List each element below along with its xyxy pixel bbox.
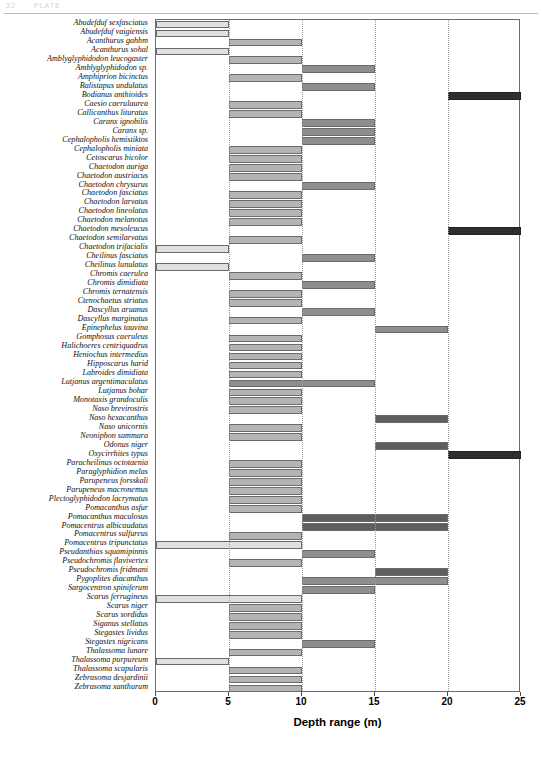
depth-range-bar[interactable] xyxy=(229,505,302,513)
depth-range-bar[interactable] xyxy=(229,406,302,414)
depth-range-bar[interactable] xyxy=(375,568,448,576)
chart-row xyxy=(156,65,519,74)
depth-range-bar[interactable] xyxy=(229,613,302,621)
chart-row xyxy=(156,199,519,208)
depth-range-bar[interactable] xyxy=(302,254,375,262)
depth-range-bar[interactable] xyxy=(229,39,302,47)
chart-row xyxy=(156,352,519,361)
depth-range-bar[interactable] xyxy=(229,487,302,495)
depth-range-bar[interactable] xyxy=(448,92,521,100)
depth-range-bar[interactable] xyxy=(229,460,302,468)
depth-range-bar[interactable] xyxy=(375,415,448,423)
depth-range-bar[interactable] xyxy=(229,290,302,298)
gridline xyxy=(448,20,449,691)
depth-range-bar[interactable] xyxy=(229,631,302,639)
depth-range-bar[interactable] xyxy=(229,362,302,370)
depth-range-bar[interactable] xyxy=(375,442,448,450)
depth-range-bar[interactable] xyxy=(229,433,302,441)
depth-range-bar[interactable] xyxy=(229,299,302,307)
depth-range-chart: Abudefduf sexfasciatusAbudefduf vaigiens… xyxy=(0,0,542,763)
depth-range-bar[interactable] xyxy=(302,550,375,558)
depth-range-bar[interactable] xyxy=(229,173,302,181)
chart-row xyxy=(156,208,519,217)
chart-row xyxy=(156,675,519,684)
chart-row xyxy=(156,217,519,226)
depth-range-bar[interactable] xyxy=(302,137,375,145)
depth-range-bar[interactable] xyxy=(229,371,302,379)
depth-range-bar[interactable] xyxy=(302,128,375,136)
depth-range-bar[interactable] xyxy=(302,586,375,594)
depth-range-bar[interactable] xyxy=(229,74,302,82)
depth-range-bar[interactable] xyxy=(229,236,302,244)
chart-row xyxy=(156,388,519,397)
depth-range-bar[interactable] xyxy=(229,200,302,208)
depth-range-bar[interactable] xyxy=(229,335,302,343)
depth-range-bar[interactable] xyxy=(229,218,302,226)
depth-range-bar[interactable] xyxy=(229,353,302,361)
x-axis-tick-label: 5 xyxy=(225,696,231,707)
depth-range-bar[interactable] xyxy=(229,622,302,630)
chart-row xyxy=(156,226,519,235)
chart-row xyxy=(156,334,519,343)
depth-range-bar[interactable] xyxy=(229,649,302,657)
chart-row xyxy=(156,325,519,334)
depth-range-bar[interactable] xyxy=(229,676,302,684)
depth-range-bar[interactable] xyxy=(229,389,302,397)
depth-range-bar[interactable] xyxy=(229,424,302,432)
chart-row xyxy=(156,657,519,666)
chart-row xyxy=(156,639,519,648)
chart-row xyxy=(156,361,519,370)
chart-row xyxy=(156,38,519,47)
depth-range-bar[interactable] xyxy=(229,146,302,154)
depth-range-bar[interactable] xyxy=(448,451,521,459)
chart-row xyxy=(156,289,519,298)
chart-row xyxy=(156,343,519,352)
depth-range-bar[interactable] xyxy=(302,83,375,91)
depth-range-bar[interactable] xyxy=(156,263,229,271)
depth-range-bar[interactable] xyxy=(229,532,302,540)
depth-range-bar[interactable] xyxy=(229,469,302,477)
chart-row xyxy=(156,298,519,307)
depth-range-bar[interactable] xyxy=(156,245,229,253)
depth-range-bar[interactable] xyxy=(229,559,302,567)
depth-range-bar[interactable] xyxy=(156,48,229,56)
depth-range-bar[interactable] xyxy=(156,21,229,29)
gridline xyxy=(229,20,230,691)
depth-range-bar[interactable] xyxy=(229,191,302,199)
depth-range-bar[interactable] xyxy=(229,478,302,486)
depth-range-bar[interactable] xyxy=(156,658,229,666)
plot-area xyxy=(155,19,520,692)
depth-range-bar[interactable] xyxy=(229,272,302,280)
depth-range-bar[interactable] xyxy=(302,182,375,190)
depth-range-bar[interactable] xyxy=(375,326,448,334)
chart-row xyxy=(156,20,519,29)
depth-range-bar[interactable] xyxy=(156,30,229,38)
depth-range-bar[interactable] xyxy=(302,281,375,289)
depth-range-bar[interactable] xyxy=(229,667,302,675)
depth-range-bar[interactable] xyxy=(229,317,302,325)
depth-range-bar[interactable] xyxy=(229,155,302,163)
depth-range-bar[interactable] xyxy=(229,496,302,504)
chart-row xyxy=(156,253,519,262)
depth-range-bar[interactable] xyxy=(448,227,521,235)
chart-row xyxy=(156,433,519,442)
depth-range-bar[interactable] xyxy=(229,604,302,612)
chart-row xyxy=(156,460,519,469)
depth-range-bar[interactable] xyxy=(229,101,302,109)
depth-range-bar[interactable] xyxy=(229,56,302,64)
depth-range-bar[interactable] xyxy=(229,209,302,217)
bar-rows xyxy=(156,20,519,691)
depth-range-bar[interactable] xyxy=(229,344,302,352)
depth-range-bar[interactable] xyxy=(302,308,375,316)
chart-row xyxy=(156,128,519,137)
x-axis-tick-label: 0 xyxy=(152,696,158,707)
depth-range-bar[interactable] xyxy=(229,110,302,118)
x-axis-tick-label: 15 xyxy=(368,696,379,707)
depth-range-bar[interactable] xyxy=(302,640,375,648)
chart-row xyxy=(156,101,519,110)
depth-range-bar[interactable] xyxy=(229,164,302,172)
depth-range-bar[interactable] xyxy=(229,397,302,405)
chart-row xyxy=(156,666,519,675)
depth-range-bar[interactable] xyxy=(302,119,375,127)
depth-range-bar[interactable] xyxy=(302,65,375,73)
